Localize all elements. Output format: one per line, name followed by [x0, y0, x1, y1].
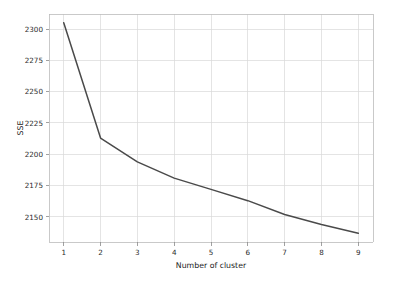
y-tick-label: 2150	[25, 213, 44, 222]
x-tick-label: 3	[135, 248, 140, 257]
y-tick-label: 2300	[25, 25, 44, 34]
y-tick-label: 2225	[25, 119, 43, 128]
y-tick-label: 2200	[25, 150, 44, 159]
y-tick-label: 2275	[25, 56, 43, 65]
elbow-plot-svg: 123456789 2150217522002225225022752300 N…	[0, 0, 395, 282]
x-tick-label: 9	[356, 248, 361, 257]
chart-figure: 123456789 2150217522002225225022752300 N…	[0, 0, 395, 282]
x-tick-label: 7	[282, 248, 287, 257]
x-tick-label: 2	[98, 248, 103, 257]
y-tick-label: 2250	[25, 87, 44, 96]
y-axis-title: SSE	[16, 121, 25, 136]
x-tick-label: 6	[246, 248, 251, 257]
x-tick-label: 4	[172, 248, 177, 257]
x-axis-title: Number of cluster	[176, 261, 247, 270]
x-tick-label: 5	[209, 248, 214, 257]
x-tick-label: 1	[61, 248, 66, 257]
x-tick-label: 8	[319, 248, 324, 257]
y-tick-label: 2175	[25, 181, 43, 190]
